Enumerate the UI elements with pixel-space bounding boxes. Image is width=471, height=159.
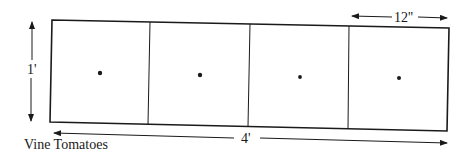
plant-dot-1	[98, 71, 102, 75]
plant-dot-3	[298, 75, 302, 79]
bed-title-label: Vine Tomatoes	[24, 137, 108, 152]
width-label: 4'	[241, 131, 251, 146]
cell-width-arrow-right	[418, 17, 447, 18]
cell-width-label: 12''	[394, 10, 413, 25]
height-label: 1'	[27, 62, 37, 77]
cell-divider-1	[148, 22, 150, 124]
cell-divider-3	[348, 26, 349, 129]
garden-bed-diagram: 1' 12'' 4' Vine Tomatoes	[0, 0, 471, 159]
cell-divider-2	[248, 24, 250, 126]
plant-dot-2	[198, 73, 202, 77]
cell-width-arrow-left	[352, 16, 392, 17]
plant-dot-4	[397, 76, 401, 80]
width-arrow-right	[260, 138, 447, 143]
